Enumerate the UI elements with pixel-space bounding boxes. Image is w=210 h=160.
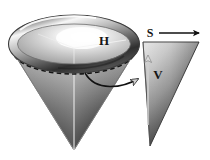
cone-shape: H — [9, 15, 140, 150]
label-h: H — [99, 33, 109, 48]
cone-interior-highlight-core — [71, 32, 97, 43]
s-arrow-group: S — [147, 26, 199, 40]
figure-root: H V S — [0, 0, 210, 160]
cone-cross-section-diagram: H V S — [0, 0, 210, 160]
label-v: V — [153, 67, 163, 82]
label-s: S — [147, 26, 154, 40]
cross-section-shape: V — [143, 42, 199, 146]
cross-section-sheen — [143, 42, 199, 146]
